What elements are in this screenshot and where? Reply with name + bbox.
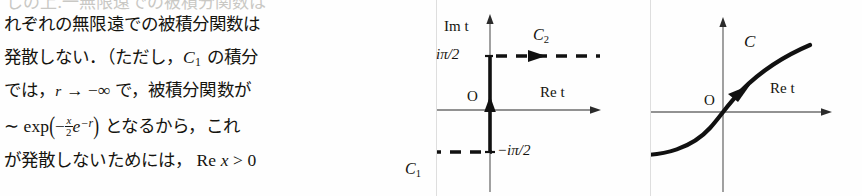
text-line-3-limit: → −∞ (61, 80, 115, 100)
figure-left-contour-c1-c2: Im t iπ/2 O Re t C2 −iπ/2 C1 (436, 0, 650, 196)
text-line-4-seg-b: となるから，これ (99, 116, 239, 136)
text-line-5-seg-a: が発散しないためには， (4, 150, 192, 170)
page-canvas: しの上.一無限遠での被積分関数は れぞれの無限遠での被積分関数は 発散しない．（… (0, 0, 862, 196)
text-line-5-Re: Re (192, 150, 216, 170)
contour-c2-arrowhead (528, 50, 546, 62)
figure-right-contour-c: O Re t C (650, 0, 862, 196)
text-line-4-exponent: −r (80, 116, 93, 130)
text-line-4-asymptotic-exp: ∼ exp (4, 116, 49, 136)
connecting-segment-arrowhead (484, 96, 496, 112)
contour-label-c1: C1 (405, 160, 421, 179)
text-line-2-seg-a: 発散しない．（ただし， (4, 47, 183, 67)
panel-divider-left (436, 0, 437, 196)
tick-label-i-pi-over-2: iπ/2 (436, 46, 459, 63)
real-axis-arrowhead-right (821, 108, 832, 116)
real-axis-arrowhead (590, 106, 601, 114)
text-line-3: では，r → −∞ で，被積分関数が (4, 82, 251, 100)
imaginary-axis-arrowhead (486, 14, 493, 24)
text-line-3-seg-a: では， (4, 80, 55, 100)
fraction-x-over-2: x2 (65, 115, 73, 138)
text-line-4-minus: − (55, 116, 65, 136)
text-line-2: 発散しない．（ただし，C1 の積分 (4, 49, 258, 69)
body-text-column: しの上.一無限遠での被積分関数は れぞれの無限遠での被積分関数は 発散しない．（… (0, 0, 436, 196)
text-line-3-seg-b: で，被積分関数が (115, 80, 251, 100)
imaginary-axis-arrowhead-right (719, 17, 726, 27)
contour-label-c2: C2 (533, 26, 549, 45)
fraction-denominator: 2 (65, 127, 73, 138)
text-line-1: れぞれの無限遠での被積分関数は (4, 16, 261, 34)
text-line-2-seg-b: の積分 (201, 47, 258, 67)
text-line-5: が発散しないためには， Re x > 0 (4, 152, 256, 170)
contour-label-c: C (744, 32, 755, 52)
text-line-1-content: れぞれの無限遠での被積分関数は (4, 14, 261, 34)
origin-label-right: O (704, 92, 715, 109)
cut-off-top-line: しの上.一無限遠での被積分関数は (6, 0, 266, 13)
close-paren: ) (93, 114, 99, 139)
text-line-2-symbol-C: C (183, 47, 195, 67)
axis-label-real-left: Re t (540, 84, 565, 101)
panel-divider-right (650, 0, 651, 196)
text-line-5-symbol-x: x (216, 150, 228, 170)
contour-c-curve (650, 45, 810, 155)
origin-label-left: O (467, 88, 478, 105)
figure-right-graphic (650, 0, 862, 196)
text-line-4: ∼ exp(−x2e−r) となるから，これ (4, 115, 240, 138)
text-line-5-inequality: > 0 (229, 150, 257, 170)
axis-label-real-right: Re t (770, 80, 795, 97)
axis-label-imaginary: Im t (444, 18, 469, 35)
open-paren: ( (49, 114, 55, 139)
tick-label-minus-i-pi-over-2: −iπ/2 (497, 142, 530, 159)
